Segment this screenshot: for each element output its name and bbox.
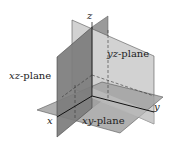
yz-plane-label: yz-plane xyxy=(106,48,149,59)
y-axis-label: y xyxy=(153,101,160,112)
x-axis-label: x xyxy=(47,115,53,126)
xy-plane-label: xy-plane xyxy=(82,115,125,126)
coordinate-planes-diagram: z x y yz-plane xz-plane xy-plane xyxy=(0,0,172,143)
z-axis-label: z xyxy=(86,10,93,21)
xz-plane-label: xz-plane xyxy=(9,70,51,81)
